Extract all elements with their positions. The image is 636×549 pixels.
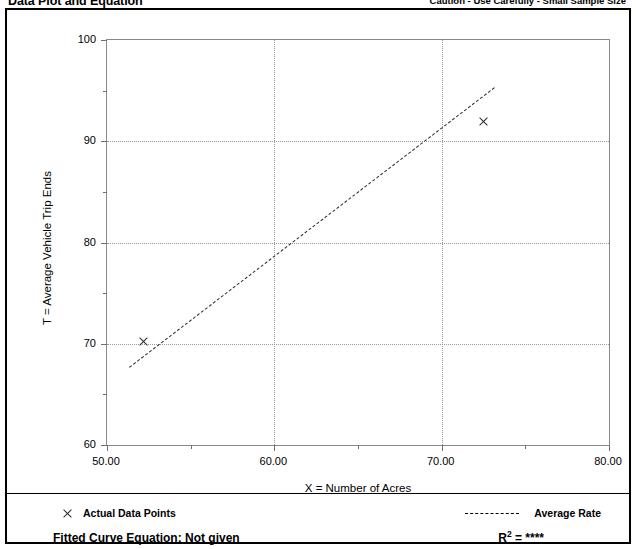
chart-legend: Actual Data Points Average Rate Fitted C… xyxy=(7,493,629,542)
y-axis-tick xyxy=(103,91,107,92)
gridline-horizontal xyxy=(107,344,609,345)
x-marker-icon xyxy=(62,508,73,519)
x-axis-tick-label: 80.00 xyxy=(594,455,622,467)
y-axis-tick xyxy=(103,293,107,294)
x-axis-tick-label: 60.00 xyxy=(260,455,288,467)
y-axis-tick xyxy=(101,344,107,345)
caution-note: Caution - Use Carefully - Small Sample S… xyxy=(430,0,626,6)
gridline-vertical xyxy=(442,40,443,445)
y-axis-tick xyxy=(101,141,107,142)
y-axis-tick-label: 80 xyxy=(84,236,96,248)
r-squared-value: R2 = **** xyxy=(498,529,544,545)
y-axis-tick-label: 60 xyxy=(84,438,96,450)
fitted-curve-equation: Fitted Curve Equation: Not given xyxy=(53,531,240,545)
gridline-horizontal xyxy=(107,141,609,142)
y-axis-tick xyxy=(103,394,107,395)
x-axis-tick xyxy=(358,445,359,449)
legend-item-average-rate: Average Rate xyxy=(534,507,601,519)
y-axis-tick xyxy=(103,192,107,193)
x-axis-tick xyxy=(191,445,192,449)
r-squared-exponent: 2 xyxy=(507,529,512,539)
data-point-marker xyxy=(478,116,489,127)
page-title: Data Plot and Equation xyxy=(8,0,143,8)
r-squared-number: = **** xyxy=(515,531,544,545)
y-axis-tick xyxy=(101,40,107,41)
data-point-marker xyxy=(138,336,149,347)
plot-area xyxy=(106,39,610,446)
x-axis-tick xyxy=(525,445,526,449)
y-axis-title: T = Average Vehicle Trip Ends xyxy=(41,171,53,325)
gridline-horizontal xyxy=(107,243,609,244)
average-rate-trendline xyxy=(129,88,494,368)
x-axis-tick xyxy=(442,445,443,451)
x-axis-tick xyxy=(107,445,108,451)
y-axis-tick-label: 70 xyxy=(84,337,96,349)
chart-panel: T = Average Vehicle Trip Ends X = Number… xyxy=(5,8,631,544)
legend-item-actual-data-points: Actual Data Points xyxy=(83,507,176,519)
x-axis-tick-label: 50.00 xyxy=(92,455,120,467)
y-axis-tick-label: 100 xyxy=(78,33,96,45)
y-axis-tick-label: 90 xyxy=(84,134,96,146)
gridline-vertical xyxy=(274,40,275,445)
x-axis-tick xyxy=(609,445,610,451)
dashed-line-icon xyxy=(465,513,519,514)
chart-region: T = Average Vehicle Trip Ends X = Number… xyxy=(7,10,629,490)
y-axis-tick xyxy=(101,243,107,244)
x-axis-tick-label: 70.00 xyxy=(427,455,455,467)
x-axis-tick xyxy=(274,445,275,451)
r-squared-prefix: R xyxy=(498,531,507,545)
